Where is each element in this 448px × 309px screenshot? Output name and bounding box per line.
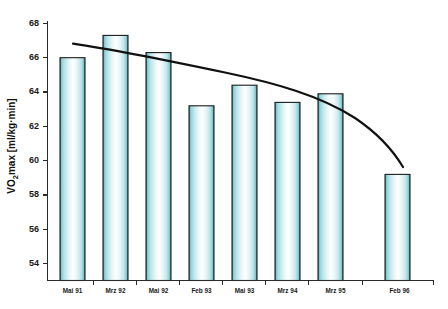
y-tick-label-62: 62 <box>29 121 39 131</box>
y-tick-label-64: 64 <box>29 86 39 96</box>
y-tick-label-56: 56 <box>29 224 39 234</box>
x-tick-label-mai-92: Mai 92 <box>149 287 169 294</box>
bar-mai-93[interactable] <box>232 85 257 280</box>
y-tick-label-58: 58 <box>29 189 39 199</box>
bar-mai-91[interactable] <box>60 58 85 281</box>
chart-container: 68 66 64 62 60 58 56 54 VO2max [ml/kg·mi… <box>0 0 448 309</box>
y-tick-label-68: 68 <box>29 18 39 28</box>
y-tick-label-66: 66 <box>29 52 39 62</box>
vo2max-bar-chart: 68 66 64 62 60 58 56 54 VO2max [ml/kg·mi… <box>0 0 448 309</box>
y-tick-label-54: 54 <box>29 258 39 268</box>
bar-feb-93[interactable] <box>189 106 214 281</box>
bar-mrz-95[interactable] <box>318 94 343 281</box>
x-tick-label-feb-93: Feb 93 <box>191 287 212 294</box>
x-tick-label-mai-93: Mai 93 <box>235 287 255 294</box>
y-axis-title-prefix: VO <box>6 179 17 194</box>
bar-feb-96[interactable] <box>385 174 410 280</box>
x-tick-label-mai-91: Mai 91 <box>63 287 83 294</box>
bar-mrz-94[interactable] <box>275 102 300 280</box>
x-tick-label-feb-96: Feb 96 <box>389 287 410 294</box>
x-tick-label-mrz-95: Mrz 95 <box>326 287 346 294</box>
y-axis-title-suffix: max [ml/kg·min] <box>6 98 17 175</box>
y-tick-label-60: 60 <box>29 155 39 165</box>
bar-mai-92[interactable] <box>146 53 171 281</box>
bar-mrz-92[interactable] <box>103 35 128 280</box>
x-tick-label-mrz-94: Mrz 94 <box>278 287 298 294</box>
x-tick-label-mrz-92: Mrz 92 <box>106 287 126 294</box>
